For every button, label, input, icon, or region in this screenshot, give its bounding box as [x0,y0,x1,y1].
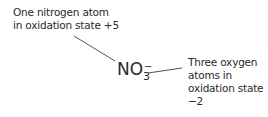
oxygen-annotation-line3: oxidation state [188,82,263,95]
nitrogen-annotation: One nitrogen atom in oxidation state +5 [13,6,119,32]
nitrogen-leader-line [74,36,115,61]
nitrogen-annotation-line2: in oxidation state +5 [13,19,119,32]
oxygen-annotation: Three oxygen atoms in oxidation state −2 [188,56,263,108]
nitrogen-annotation-line1: One nitrogen atom [13,6,119,19]
oxygen-annotation-line2: atoms in [188,69,263,82]
oxygen-annotation-line1: Three oxygen [188,56,263,69]
formula-charge: − [144,57,152,77]
oxygen-annotation-line4: −2 [188,95,263,108]
nitrate-formula: NO3− [117,59,150,82]
oxygen-leader-line [148,68,182,73]
formula-base: NO [117,59,143,79]
